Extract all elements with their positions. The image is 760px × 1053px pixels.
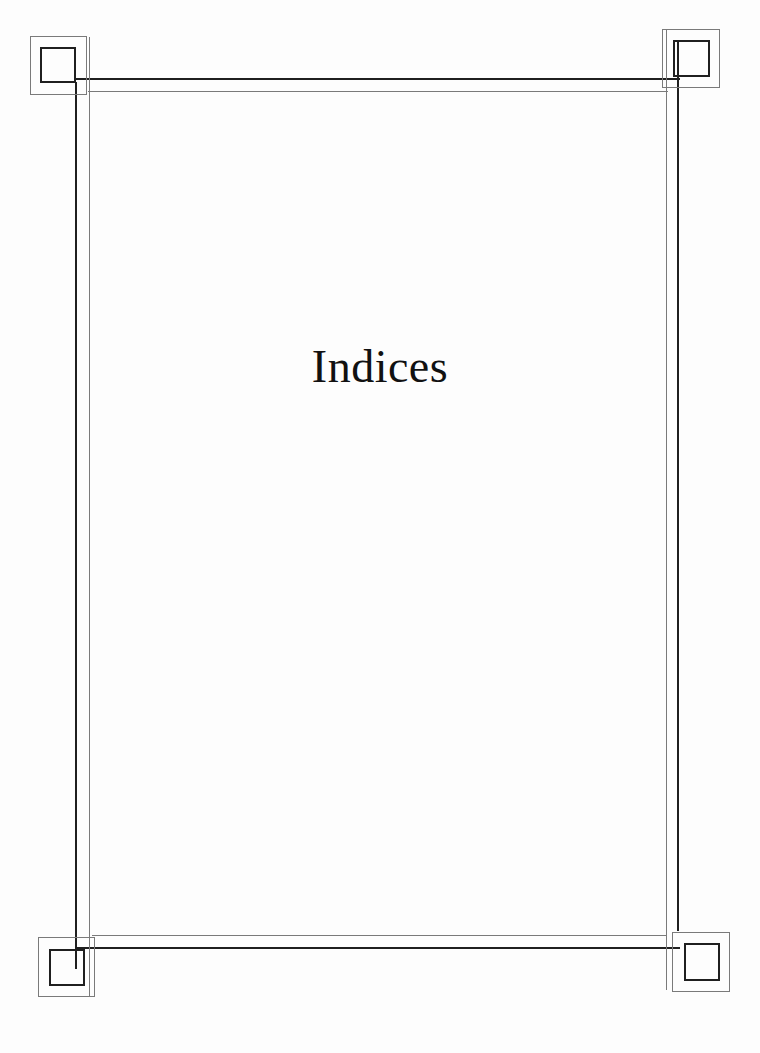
frame-left-dark-line xyxy=(75,82,77,969)
frame-top-dark-line xyxy=(76,78,680,80)
frame-bottom-light-line xyxy=(92,935,667,936)
frame-right-light-line xyxy=(666,30,667,990)
document-page: Indices xyxy=(0,0,760,1053)
frame-left-light-line xyxy=(89,37,90,997)
corner-ornament-top-left-inner xyxy=(40,47,76,83)
frame-right-dark-line xyxy=(677,41,679,931)
corner-ornament-top-right-inner xyxy=(673,40,710,77)
frame-bottom-dark-line xyxy=(77,947,680,949)
corner-ornament-bottom-left-inner xyxy=(49,949,85,986)
frame-top-light-line xyxy=(88,91,668,92)
corner-ornament-bottom-right-inner xyxy=(684,943,720,981)
page-title: Indices xyxy=(0,340,760,393)
